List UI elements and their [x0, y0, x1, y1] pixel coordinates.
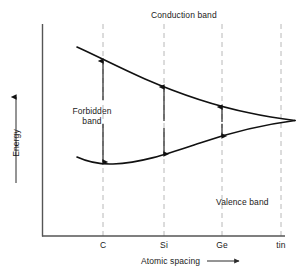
x-axis-title: Atomic spacing	[141, 256, 200, 266]
valence-band-label: Valence band	[216, 197, 269, 207]
x-tick-label-ge: Ge	[216, 240, 228, 250]
x-tick-label-tin: tin	[276, 240, 285, 250]
valence-band-curve	[77, 121, 295, 165]
x-tick-label-si: Si	[160, 240, 168, 250]
diagram-canvas	[0, 0, 302, 277]
y-axis-title: Energy	[11, 129, 21, 157]
forbidden-band-label-line2: band	[72, 116, 111, 126]
forbidden-band-label: Forbidden band	[72, 106, 111, 126]
forbidden-band-label-line1: Forbidden	[72, 106, 111, 116]
x-tick-label-c: C	[100, 240, 106, 250]
energy-band-diagram: Conduction band Forbidden band Valence b…	[0, 0, 302, 277]
conduction-band-label: Conduction band	[151, 10, 217, 20]
